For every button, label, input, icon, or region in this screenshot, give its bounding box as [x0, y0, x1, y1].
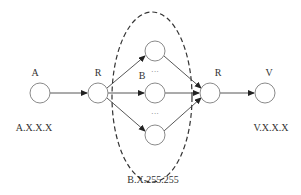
- node-b-bottom: [145, 125, 165, 145]
- ellipsis-bottom: ···: [151, 109, 159, 118]
- network-diagram: A A.X.X.X R ··· B ··· R V V.X.X.X B.X.25…: [0, 0, 301, 195]
- label-r2: R: [215, 67, 222, 78]
- group-label: B.X.255.255: [127, 174, 178, 185]
- node-b-top: [145, 41, 165, 61]
- ellipsis-top: ···: [151, 67, 159, 76]
- label-b: B: [139, 70, 146, 81]
- edge-btop-r2: [164, 56, 201, 88]
- node-v: [255, 83, 275, 103]
- address-a: A.X.X.X: [16, 122, 53, 133]
- address-v: V.X.X.X: [253, 122, 289, 133]
- label-a: A: [31, 67, 39, 78]
- node-r1: [88, 83, 108, 103]
- edge-bbottom-r2: [164, 98, 201, 131]
- label-v: V: [265, 67, 273, 78]
- node-r2: [200, 83, 220, 103]
- node-a: [30, 83, 50, 103]
- label-r1: R: [95, 67, 102, 78]
- node-b: [145, 83, 165, 103]
